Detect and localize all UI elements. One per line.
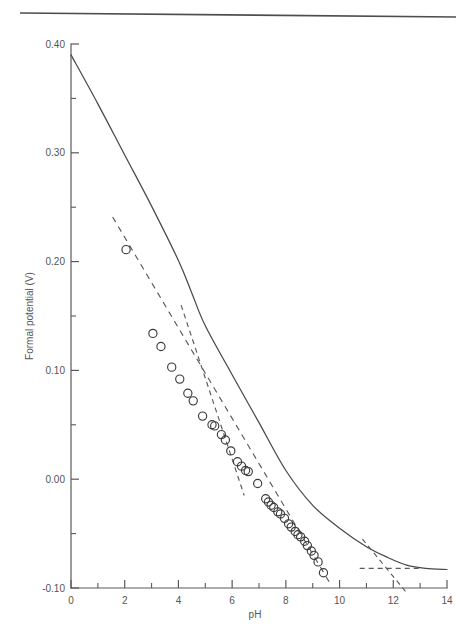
x-tick-label: 0 [68,595,74,606]
data-point [149,329,157,337]
data-point [199,412,207,420]
asymptote-high-ph-steep [362,539,405,591]
data-point [122,246,130,254]
theoretical-curve [71,55,447,570]
x-tick-label: 12 [388,595,400,606]
y-tick-label: 0.40 [46,39,66,50]
y-tick-label: 0.30 [46,147,66,158]
y-tick-label: 0.20 [46,256,66,267]
x-tick-label: 2 [122,595,128,606]
x-tick-label: 14 [441,595,453,606]
data-point [254,479,262,487]
plot-area [71,55,447,591]
x-axis-title: pH [249,609,262,620]
data-points-group [122,246,328,577]
y-tick-label: 0.00 [46,474,66,485]
data-point [189,397,197,405]
y-axis-ticks [71,44,79,588]
data-point [319,569,327,577]
data-point [168,363,176,371]
axes-group: 02468101214 0.400.300.200.100.00-0.10 [42,39,453,607]
y-tick-label: -0.10 [42,583,65,594]
x-axis-ticks [71,580,447,588]
x-tick-label: 6 [229,595,235,606]
x-tick-label: 4 [176,595,182,606]
data-point [184,389,192,397]
data-point [314,558,322,566]
x-tick-label: 8 [283,595,289,606]
y-axis-tick-labels: 0.400.300.200.100.00-0.10 [42,39,65,594]
data-point [176,375,184,383]
x-axis-tick-labels: 02468101214 [68,595,453,606]
y-tick-label: 0.10 [46,365,66,376]
data-point [211,422,219,430]
ph-potential-chart: 02468101214 0.400.300.200.100.00-0.10 pH… [0,0,476,638]
figure-container: 02468101214 0.400.300.200.100.00-0.10 pH… [0,0,476,638]
data-point [244,467,252,475]
data-point [157,342,165,350]
top-rule [20,13,456,17]
asymptote-mid-ph [181,305,244,495]
x-tick-label: 10 [334,595,346,606]
y-axis-title: Formal potential (V) [24,272,35,360]
